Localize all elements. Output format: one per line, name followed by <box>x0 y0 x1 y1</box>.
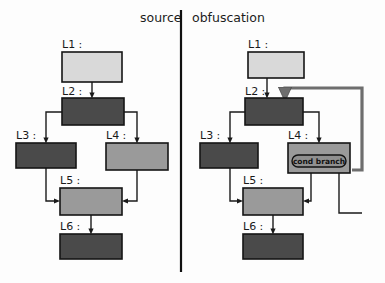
panel-title-obfuscation: obfuscation <box>192 10 265 25</box>
edge-obf-l2-l3 <box>230 112 245 141</box>
obfuscation-block-l5[interactable] <box>243 188 303 215</box>
source-block-l4[interactable] <box>106 143 168 170</box>
obfuscation-label-l1: L1 : <box>248 38 268 51</box>
panel-obfuscation: cond branch L1 : L2 : L3 : L4 : L5 : L6 … <box>200 38 362 259</box>
source-label-l6: L6 : <box>60 220 80 233</box>
panel-source: L1 : L2 : L3 : L4 : L5 : L6 : <box>16 38 168 259</box>
obfuscation-block-l1[interactable] <box>248 52 304 78</box>
panel-title-source: source <box>140 10 182 25</box>
obfuscation-label-l6: L6 : <box>243 220 263 233</box>
edge-source-l2-l3 <box>46 112 62 141</box>
source-label-l3: L3 : <box>16 129 36 142</box>
cond-branch-chip-label: cond branch <box>293 157 345 166</box>
source-block-l3[interactable] <box>16 143 76 168</box>
edge-obf-condbranch-loop <box>339 167 362 213</box>
source-label-l5: L5 : <box>60 174 80 187</box>
obfuscation-label-l4: L4 : <box>288 129 308 142</box>
edge-source-l4-l5 <box>125 170 137 201</box>
source-block-l6[interactable] <box>60 234 122 259</box>
source-block-l1[interactable] <box>62 52 122 82</box>
obfuscation-label-l2: L2 : <box>245 85 265 98</box>
figure-canvas: source obfuscation <box>0 0 385 283</box>
source-block-l2[interactable] <box>62 98 124 125</box>
obfuscation-label-l5: L5 : <box>243 174 263 187</box>
edge-obf-l3-l5 <box>230 168 240 201</box>
obfuscation-block-l3[interactable] <box>200 143 258 168</box>
source-block-l5[interactable] <box>60 188 122 215</box>
cfg-diagram-svg: source obfuscation <box>0 0 385 283</box>
source-label-l4: L4 : <box>106 129 126 142</box>
obfuscation-block-l6[interactable] <box>243 234 303 259</box>
edge-source-l3-l5 <box>46 168 57 201</box>
source-label-l2: L2 : <box>62 85 82 98</box>
source-label-l1: L1 : <box>62 38 82 51</box>
obfuscation-block-l2[interactable] <box>245 98 303 125</box>
obfuscation-label-l3: L3 : <box>200 129 220 142</box>
